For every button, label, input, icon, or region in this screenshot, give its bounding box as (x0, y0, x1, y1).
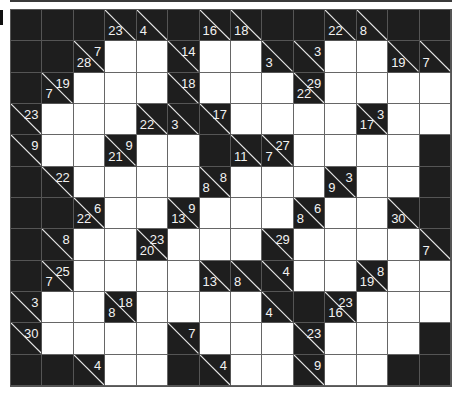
down-sum: 7 (423, 244, 430, 257)
entry-cell[interactable] (388, 323, 419, 354)
entry-cell[interactable] (137, 135, 168, 166)
entry-cell[interactable] (105, 167, 136, 198)
entry-cell[interactable] (74, 167, 105, 198)
entry-cell[interactable] (200, 41, 231, 72)
entry-cell[interactable] (74, 229, 105, 260)
entry-cell[interactable] (231, 198, 262, 229)
entry-cell[interactable] (168, 135, 199, 166)
entry-cell[interactable] (325, 229, 356, 260)
entry-cell[interactable] (325, 355, 356, 386)
entry-cell[interactable] (357, 198, 388, 229)
entry-cell[interactable] (231, 292, 262, 323)
entry-cell[interactable] (357, 41, 388, 72)
entry-cell[interactable] (42, 104, 73, 135)
entry-cell[interactable] (325, 198, 356, 229)
entry-cell[interactable] (105, 104, 136, 135)
entry-cell[interactable] (388, 104, 419, 135)
entry-cell[interactable] (325, 104, 356, 135)
entry-cell[interactable] (137, 355, 168, 386)
entry-cell[interactable] (74, 261, 105, 292)
down-sum: 13 (203, 275, 217, 288)
entry-cell[interactable] (325, 323, 356, 354)
entry-cell[interactable] (388, 167, 419, 198)
entry-cell[interactable] (137, 73, 168, 104)
entry-cell[interactable] (325, 261, 356, 292)
entry-cell[interactable] (262, 167, 293, 198)
entry-cell[interactable] (357, 292, 388, 323)
entry-cell[interactable] (231, 323, 262, 354)
entry-cell[interactable] (137, 323, 168, 354)
entry-cell[interactable] (294, 229, 325, 260)
entry-cell[interactable] (42, 135, 73, 166)
entry-cell[interactable] (357, 73, 388, 104)
entry-cell[interactable] (357, 323, 388, 354)
entry-cell[interactable] (105, 261, 136, 292)
entry-cell[interactable] (294, 167, 325, 198)
entry-cell[interactable] (105, 198, 136, 229)
entry-cell[interactable] (105, 73, 136, 104)
entry-cell[interactable] (294, 261, 325, 292)
entry-cell[interactable] (105, 41, 136, 72)
entry-cell[interactable] (200, 73, 231, 104)
entry-cell[interactable] (42, 292, 73, 323)
entry-cell[interactable] (231, 104, 262, 135)
entry-cell[interactable] (168, 229, 199, 260)
entry-cell[interactable] (74, 73, 105, 104)
entry-cell[interactable] (105, 229, 136, 260)
entry-cell[interactable] (74, 323, 105, 354)
entry-cell[interactable] (137, 198, 168, 229)
entry-cell[interactable] (231, 167, 262, 198)
entry-cell[interactable] (262, 355, 293, 386)
entry-cell[interactable] (231, 229, 262, 260)
entry-cell[interactable] (137, 41, 168, 72)
entry-cell[interactable] (231, 355, 262, 386)
entry-cell[interactable] (262, 104, 293, 135)
entry-cell[interactable] (168, 292, 199, 323)
entry-cell[interactable] (262, 323, 293, 354)
entry-cell[interactable] (168, 167, 199, 198)
clue-cell: 2922 (294, 73, 325, 104)
entry-cell[interactable] (357, 229, 388, 260)
blocked-cell (42, 41, 73, 72)
entry-cell[interactable] (262, 198, 293, 229)
entry-cell[interactable] (231, 41, 262, 72)
entry-cell[interactable] (388, 292, 419, 323)
entry-cell[interactable] (137, 292, 168, 323)
entry-cell[interactable] (357, 355, 388, 386)
entry-cell[interactable] (262, 73, 293, 104)
entry-cell[interactable] (200, 198, 231, 229)
entry-cell[interactable] (420, 292, 451, 323)
entry-cell[interactable] (294, 104, 325, 135)
entry-cell[interactable] (200, 292, 231, 323)
entry-cell[interactable] (388, 135, 419, 166)
entry-cell[interactable] (137, 167, 168, 198)
entry-cell[interactable] (388, 261, 419, 292)
entry-cell[interactable] (294, 135, 325, 166)
entry-cell[interactable] (325, 135, 356, 166)
entry-cell[interactable] (74, 104, 105, 135)
entry-cell[interactable] (42, 323, 73, 354)
entry-cell[interactable] (420, 73, 451, 104)
entry-cell[interactable] (357, 167, 388, 198)
blocked-cell (42, 10, 73, 41)
entry-cell[interactable] (74, 135, 105, 166)
entry-cell[interactable] (105, 355, 136, 386)
entry-cell[interactable] (200, 229, 231, 260)
entry-cell[interactable] (388, 73, 419, 104)
entry-cell[interactable] (137, 261, 168, 292)
entry-cell[interactable] (420, 104, 451, 135)
entry-cell[interactable] (357, 135, 388, 166)
entry-cell[interactable] (325, 73, 356, 104)
entry-cell[interactable] (420, 261, 451, 292)
entry-cell[interactable] (388, 229, 419, 260)
entry-cell[interactable] (105, 323, 136, 354)
clue-cell: 22 (137, 104, 168, 135)
across-sum: 23 (24, 108, 38, 121)
entry-cell[interactable] (74, 292, 105, 323)
down-sum: 22 (140, 118, 154, 131)
entry-cell[interactable] (325, 41, 356, 72)
entry-cell[interactable] (168, 261, 199, 292)
entry-cell[interactable] (231, 73, 262, 104)
blocked-cell (294, 292, 325, 323)
entry-cell[interactable] (200, 323, 231, 354)
